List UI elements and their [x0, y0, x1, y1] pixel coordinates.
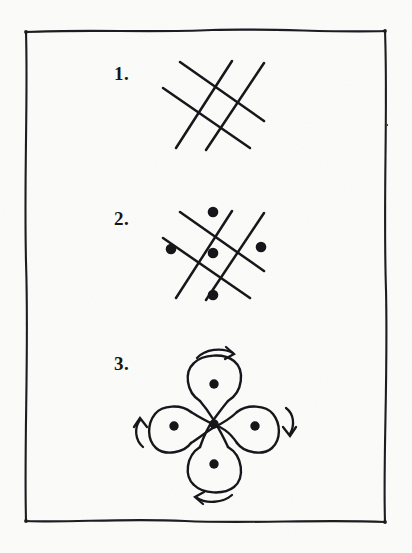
top-dot — [208, 207, 219, 218]
border-corner-tr — [383, 29, 387, 33]
bottom-dot — [209, 459, 218, 468]
top-dot — [209, 379, 218, 388]
step-label-1: 1. — [114, 63, 129, 85]
center-dot — [209, 419, 218, 428]
paper-sheet: 1. 2. 3. — [0, 0, 412, 553]
bottom-dot — [208, 290, 219, 301]
paper-grain — [0, 0, 412, 553]
border-corner-tl — [24, 30, 28, 34]
border-corner-bl — [24, 519, 28, 523]
step-label-3: 3. — [114, 353, 129, 375]
border-left-edge — [25, 32, 27, 521]
right-dot — [250, 421, 259, 430]
step-label-2: 2. — [114, 208, 129, 230]
kolam-drawing — [0, 0, 412, 553]
left-dot — [166, 244, 177, 255]
border-corner-br — [383, 520, 387, 524]
center-dot — [208, 248, 219, 259]
right-dot — [256, 242, 267, 253]
left-dot — [169, 421, 178, 430]
